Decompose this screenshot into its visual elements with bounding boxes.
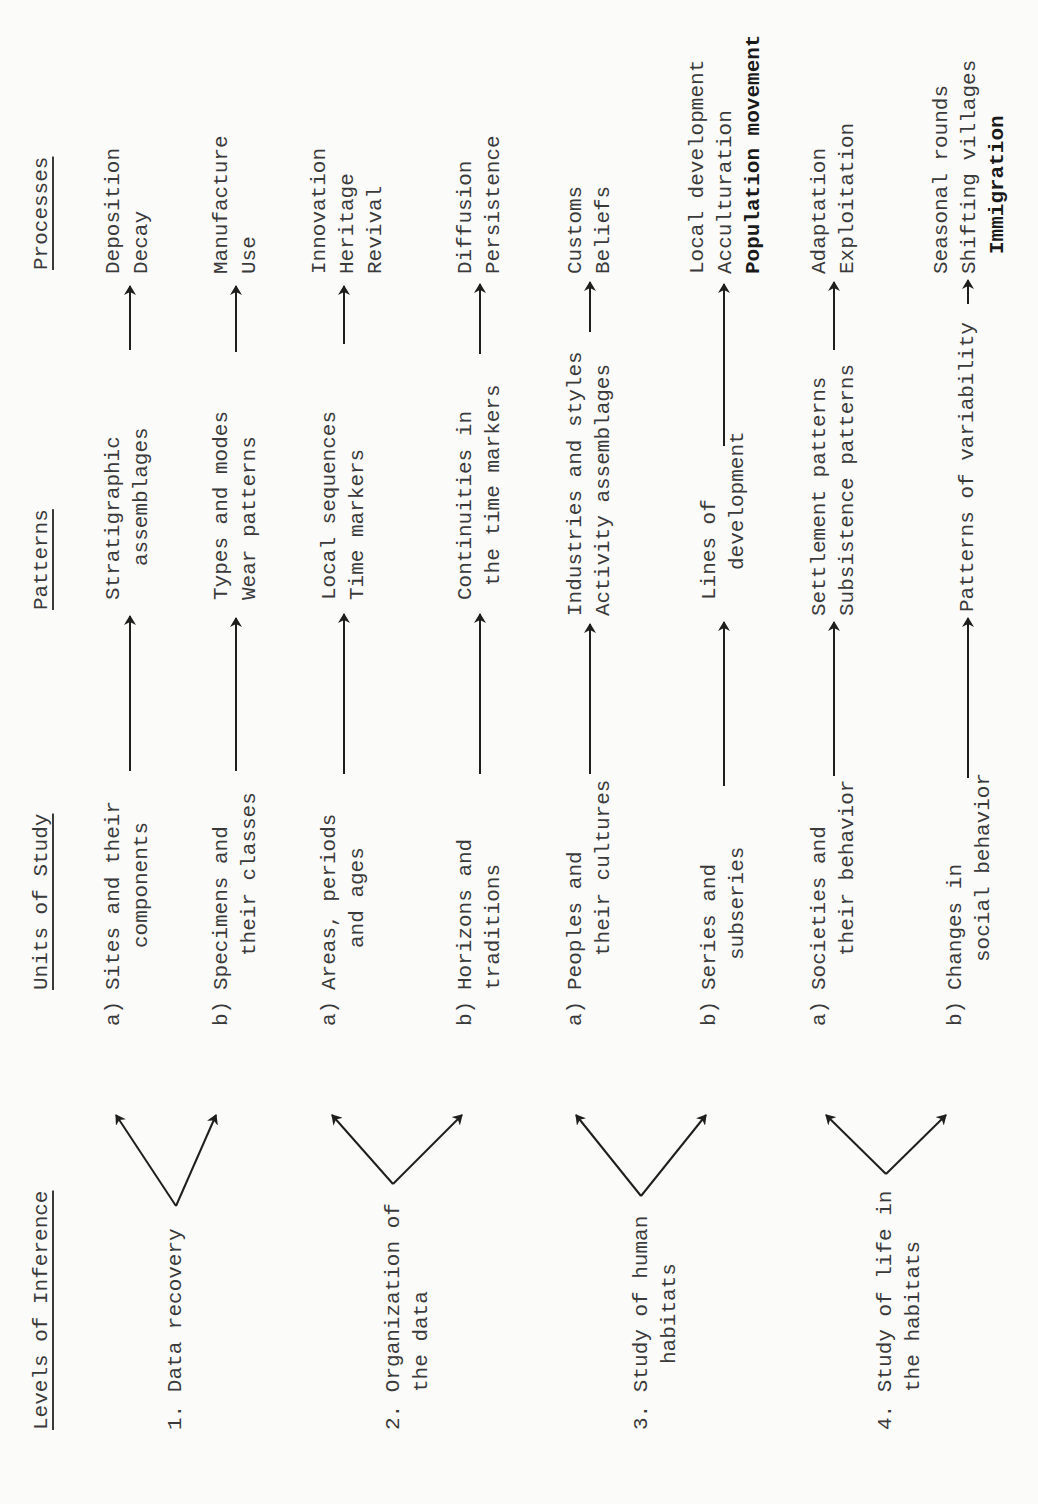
level-2-line2: the data	[408, 1291, 436, 1392]
level-label: Organization of	[382, 1203, 405, 1392]
unit-series: Series and	[696, 864, 724, 990]
level-number: 1.	[164, 1405, 187, 1430]
unit-sites-line2: components	[128, 822, 156, 948]
unit-series-line2: subseries	[724, 847, 752, 960]
unit-societies-line2: their behavior	[834, 780, 862, 956]
pattern-stratigraphic: Stratigraphic	[100, 436, 128, 600]
unit-specimens-line2: their classes	[236, 792, 264, 956]
pattern-settlement: Settlement patterns	[806, 377, 834, 616]
process-innovation: Innovation	[306, 148, 334, 274]
header-patterns: Patterns	[28, 509, 56, 610]
unit-changes-line2: social behavior	[970, 773, 998, 962]
pattern-time-markers: Time markers	[344, 449, 372, 600]
process-immigration: Immigration	[984, 115, 1012, 254]
pattern-variability: Patterns of variability	[954, 322, 982, 612]
process-adaptation: Adaptation	[806, 148, 834, 274]
process-beliefs: Beliefs	[590, 186, 618, 274]
unit-areas-line2: and ages	[344, 847, 372, 948]
level-label: Study of human	[630, 1216, 653, 1392]
pattern-industries: Industries and styles	[562, 351, 590, 616]
process-local-development: Local development	[684, 60, 712, 274]
pattern-continuities-line2: the time markers	[480, 384, 508, 586]
unit-tag: a)	[806, 1001, 834, 1026]
process-persistence: Persistence	[480, 135, 508, 274]
unit-horizons-line2: traditions	[480, 864, 508, 990]
unit-areas: Areas, periods	[316, 814, 344, 990]
pattern-subsistence: Subsistence patterns	[834, 364, 862, 616]
process-revival: Revival	[362, 186, 390, 274]
level-label: Data recovery	[164, 1228, 187, 1392]
unit-horizons: Horizons and	[452, 839, 480, 990]
level-1: 1. Data recovery	[162, 1228, 190, 1430]
unit-tag: b)	[208, 1001, 236, 1026]
process-diffusion: Diffusion	[452, 161, 480, 274]
pattern-lines-line2: development	[724, 431, 752, 570]
pattern-local-sequences: Local sequences	[316, 411, 344, 600]
process-manufacture: Manufacture	[208, 135, 236, 274]
process-seasonal-rounds: Seasonal rounds	[928, 85, 956, 274]
unit-sites: Sites and their	[100, 801, 128, 990]
process-exploitation: Exploitation	[834, 123, 862, 274]
unit-tag: b)	[452, 1001, 480, 1026]
header-processes: Processes	[28, 157, 56, 270]
pattern-wear: Wear patterns	[236, 436, 264, 600]
unit-tag: b)	[696, 1001, 724, 1026]
process-population-movement: Population movement	[740, 35, 768, 274]
level-4: 4. Study of life in	[872, 1191, 900, 1430]
pattern-activity: Activity assemblages	[590, 364, 618, 616]
process-shifting-villages: Shifting villages	[956, 60, 984, 274]
pattern-stratigraphic-line2: assemblages	[128, 427, 156, 566]
level-3: 3. Study of human	[628, 1216, 656, 1430]
process-deposition: Deposition	[100, 148, 128, 274]
level-3-line2: habitats	[656, 1263, 684, 1364]
unit-specimens: Specimens and	[208, 826, 236, 990]
level-number: 2.	[382, 1405, 405, 1430]
unit-peoples-line2: their cultures	[590, 780, 618, 956]
level-number: 3.	[630, 1405, 653, 1430]
level-number: 4.	[874, 1405, 897, 1430]
process-acculturation: Acculturation	[712, 110, 740, 274]
pattern-continuities: Continuities in	[452, 411, 480, 600]
unit-tag: a)	[562, 1001, 590, 1026]
header-levels-of-inference: Levels of Inference	[28, 1191, 56, 1430]
pattern-types: Types and modes	[208, 411, 236, 600]
unit-tag: a)	[100, 1001, 128, 1026]
process-heritage: Heritage	[334, 173, 362, 274]
inference-diagram: Levels of Inference Units of Study Patte…	[0, 0, 1038, 1504]
process-use: Use	[236, 236, 264, 274]
unit-changes: Changes in	[942, 864, 970, 990]
level-4-line2: the habitats	[900, 1241, 928, 1392]
unit-tag: b)	[942, 1001, 970, 1026]
header-units-of-study: Units of Study	[28, 814, 56, 990]
process-decay: Decay	[128, 211, 156, 274]
unit-peoples: Peoples and	[562, 851, 590, 990]
pattern-lines: Lines of	[696, 499, 724, 600]
level-label: Study of life in	[874, 1191, 897, 1393]
process-customs: Customs	[562, 186, 590, 274]
level-2: 2. Organization of	[380, 1203, 408, 1430]
unit-tag: a)	[316, 1001, 344, 1026]
unit-societies: Societies and	[806, 826, 834, 990]
